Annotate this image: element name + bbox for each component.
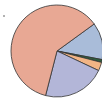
pie-chart — [0, 0, 102, 98]
